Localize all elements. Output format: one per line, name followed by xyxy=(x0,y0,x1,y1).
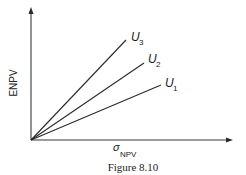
x-axis-label-symbol: σ xyxy=(113,141,120,153)
line-label-u3: U 3 xyxy=(131,30,144,47)
line-u2 xyxy=(31,63,144,140)
y-axis-arrow-icon xyxy=(29,7,34,14)
line-label-u1: U 1 xyxy=(165,76,178,93)
line-label-u2-subscript: 2 xyxy=(156,60,161,69)
x-axis-arrow-icon xyxy=(226,138,233,143)
line-label-u1-subscript: 1 xyxy=(173,84,178,93)
line-u1 xyxy=(31,85,161,140)
x-axis xyxy=(31,138,233,143)
y-axis-label: ENPV xyxy=(8,69,19,97)
figure-diagram: U 3 U 2 U 1 ENPV σ NPV Figure 8.10 xyxy=(0,0,246,175)
x-axis-label-subscript: NPV xyxy=(120,150,137,159)
line-label-u3-subscript: 3 xyxy=(139,38,144,47)
utility-lines xyxy=(31,40,161,140)
line-u3 xyxy=(31,40,126,140)
x-axis-label: σ NPV xyxy=(113,141,137,159)
figure-caption: Figure 8.10 xyxy=(108,161,159,173)
y-axis xyxy=(29,7,34,140)
line-label-u2: U 2 xyxy=(148,52,161,69)
